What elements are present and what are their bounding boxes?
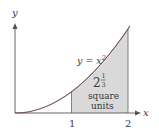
area-numerator: 1 — [102, 72, 106, 80]
area-text-square: square — [88, 91, 119, 101]
y-axis-arrow-icon — [13, 23, 18, 29]
area-denominator: 3 — [102, 81, 106, 89]
curve-label: y = x2 — [76, 54, 106, 66]
area-diagram: y x 1 2 y = x2 2 1 3 square units — [0, 0, 159, 138]
curve-label-exponent: 2 — [101, 54, 106, 62]
area-text-units: units — [91, 101, 114, 111]
x-tick-2: 2 — [125, 118, 131, 129]
x-axis-label: x — [143, 107, 149, 118]
x-axis-arrow-icon — [135, 111, 141, 116]
area-whole: 2 — [93, 76, 101, 90]
x-tick-1: 1 — [69, 118, 75, 129]
y-axis-label: y — [11, 7, 18, 18]
